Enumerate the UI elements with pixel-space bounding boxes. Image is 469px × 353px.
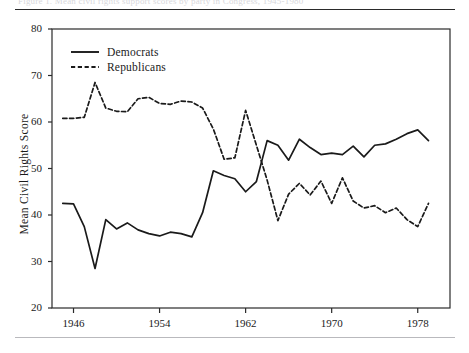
legend-label-republicans: Republicans	[107, 61, 166, 73]
y-tick-label: 50	[16, 162, 42, 174]
series-line-democrats	[63, 130, 429, 269]
series-line-republicans	[63, 82, 429, 226]
legend-label-democrats: Democrats	[107, 46, 159, 58]
y-tick-label: 30	[16, 255, 42, 267]
y-tick-label: 40	[16, 208, 42, 220]
x-tick-label: 1970	[312, 317, 352, 329]
legend-item-democrats: Democrats	[70, 44, 166, 59]
figure-container: Figure 1. Mean civil rights support scor…	[0, 0, 469, 353]
x-tick-label: 1946	[54, 317, 94, 329]
x-tick-marks	[74, 308, 418, 313]
x-tick-label: 1978	[398, 317, 438, 329]
y-tick-label: 60	[16, 115, 42, 127]
legend-line-dashed-icon	[70, 62, 100, 72]
y-tick-label: 20	[16, 301, 42, 313]
y-axis-label: Mean Civil Rights Score	[18, 74, 30, 274]
y-tick-label: 80	[16, 22, 42, 34]
x-tick-label: 1954	[140, 317, 180, 329]
x-tick-label: 1962	[226, 317, 266, 329]
y-tick-label: 70	[16, 69, 42, 81]
legend-line-solid-icon	[70, 47, 100, 57]
chart-legend: Democrats Republicans	[70, 44, 166, 74]
data-series-group	[63, 82, 429, 268]
legend-item-republicans: Republicans	[70, 59, 166, 74]
